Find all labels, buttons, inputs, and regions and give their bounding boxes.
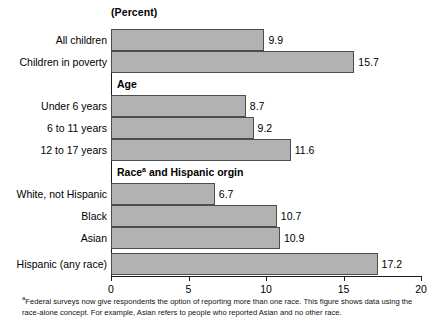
x-axis-tick [111, 276, 112, 281]
category-label: 12 to 17 years [0, 139, 107, 161]
x-axis-tick [344, 276, 345, 281]
bar [111, 51, 354, 73]
bar-row: 6 to 11 years9.2 [0, 117, 435, 139]
bar-value-label: 10.7 [277, 210, 301, 222]
bar [111, 227, 280, 249]
bar-row: White, not Hispanic6.7 [0, 183, 435, 205]
bar-row: Black10.7 [0, 205, 435, 227]
category-label: White, not Hispanic [0, 183, 107, 205]
bar-value-label: 15.7 [354, 56, 378, 68]
bar-row: Hispanic (any race)17.2 [0, 253, 435, 275]
x-axis-tick [189, 276, 190, 281]
category-label: 6 to 11 years [0, 117, 107, 139]
group-header-text: Age [117, 78, 137, 90]
bar-row: All children9.9 [0, 29, 435, 51]
group-header-text-rest: and Hispanic orgin [146, 166, 243, 178]
bar-row: Children in poverty15.7 [0, 51, 435, 73]
x-axis-tick-label: 0 [108, 283, 114, 295]
category-label: Under 6 years [0, 95, 107, 117]
group-header-age: Age [112, 73, 422, 95]
category-label: Black [0, 205, 107, 227]
bar-row: Under 6 years8.7 [0, 95, 435, 117]
bar [111, 253, 378, 275]
category-label: Children in poverty [0, 51, 107, 73]
footnote-text: Federal surveys now give respondents the… [22, 297, 412, 317]
bar-chart-figure: (Percent) All children9.9Children in pov… [0, 0, 435, 321]
bar-value-label: 8.7 [246, 100, 265, 112]
x-axis-tick-label: 10 [260, 283, 272, 295]
bar-value-label: 11.6 [291, 144, 315, 156]
bar-value-label: 9.9 [264, 34, 283, 46]
x-axis-tick-label: 5 [186, 283, 192, 295]
bar [111, 29, 264, 51]
category-label: All children [0, 29, 107, 51]
group-header-race: Racea and Hispanic orgin [112, 161, 422, 183]
category-label: Asian [0, 227, 107, 249]
x-axis-tick [421, 276, 422, 281]
bar-row: 12 to 17 years11.6 [0, 139, 435, 161]
category-label: Hispanic (any race) [0, 253, 107, 275]
bar-value-label: 10.9 [280, 232, 304, 244]
bar [111, 205, 277, 227]
x-axis-tick [266, 276, 267, 281]
x-axis-tick-label: 15 [338, 283, 350, 295]
bar-value-label: 9.2 [254, 122, 273, 134]
group-header-text: Race [117, 166, 142, 178]
x-axis-tick-label: 20 [415, 283, 427, 295]
bar [111, 95, 246, 117]
bar [111, 139, 291, 161]
bar-row: Asian10.9 [0, 227, 435, 249]
bar-value-label: 17.2 [378, 258, 402, 270]
footnote: aFederal surveys now give respondents th… [22, 297, 422, 318]
bar [111, 183, 215, 205]
bar [111, 117, 254, 139]
bar-value-label: 6.7 [215, 188, 234, 200]
percent-unit-caption: (Percent) [111, 6, 157, 18]
